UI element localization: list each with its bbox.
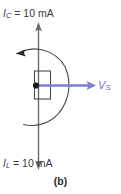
source-voltage-subscript: S <box>105 83 110 92</box>
node-dot <box>33 82 39 88</box>
capacitive-current-value: = 10 mA <box>11 7 53 19</box>
inductive-current-label: IL = 10 mA <box>3 157 52 170</box>
current-loop-arc <box>22 49 69 125</box>
figure-caption: (b) <box>0 175 121 187</box>
inductive-current-value: = 10 mA <box>10 157 52 169</box>
capacitive-current-label: IC = 10 mA <box>3 7 54 20</box>
source-voltage-label: VS <box>98 79 111 92</box>
arc-left-arrowhead-icon <box>16 50 26 57</box>
